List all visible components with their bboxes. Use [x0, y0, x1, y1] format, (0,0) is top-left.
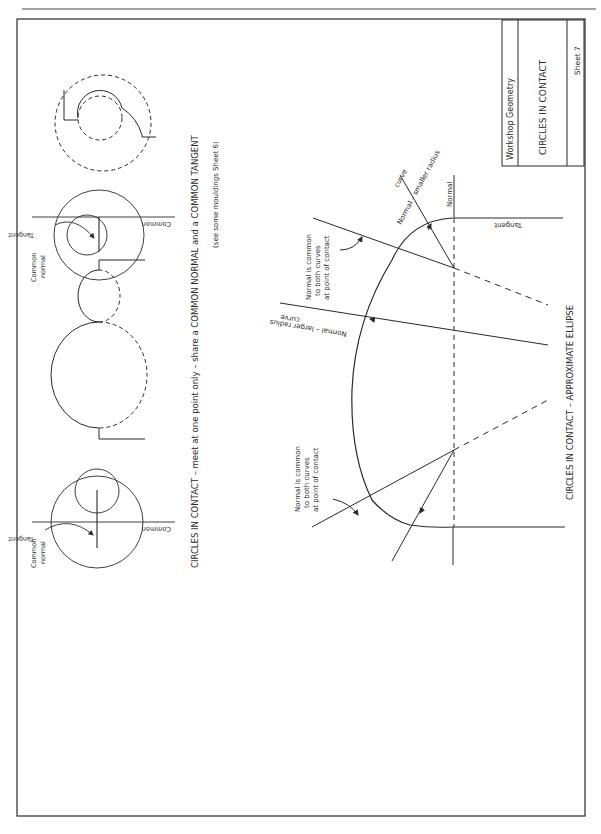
- fig1-common-normal-line1: Common: [30, 539, 38, 568]
- note-lower-line3: at point of contact: [312, 447, 320, 512]
- note-upper-line1: Normal is common: [305, 234, 313, 300]
- title-block-title: CIRCLES IN CONTACT: [538, 59, 548, 155]
- figure-external-contact: [32, 469, 175, 568]
- top-caption: CIRCLES IN CONTACT – meet at one point o…: [190, 134, 200, 568]
- fig3-common-normal-line1: Common: [30, 253, 38, 282]
- figure-internal-contact: [32, 190, 175, 280]
- fig3-tangent-label: Tangent: [8, 231, 35, 239]
- title-block-subject: Workshop Geometry: [506, 78, 515, 160]
- fig3-common-label: Common: [142, 220, 171, 228]
- drawing-sheet: Workshop Geometry CIRCLES IN CONTACT She…: [0, 0, 601, 834]
- smaller-radius-label-line1: Normal – smaller radius: [396, 149, 442, 226]
- note-lower-line2: to both curves: [303, 457, 311, 508]
- title-block: Workshop Geometry CIRCLES IN CONTACT She…: [502, 20, 584, 166]
- ellipse-tangent-label: Tangent: [494, 221, 523, 229]
- note-upper-line2: to both curves: [314, 245, 322, 296]
- top-subcaption: (see some mouldings Sheet 6): [212, 141, 220, 248]
- figure-moulding-bead: [55, 75, 156, 171]
- fig3-common-normal-line2: normal: [39, 255, 47, 278]
- sheet-border: [17, 19, 585, 816]
- fig1-common-label: Common: [142, 525, 171, 533]
- note-lower-line1: Normal is common: [294, 446, 302, 512]
- title-block-sheet-number: Sheet 7: [573, 46, 582, 75]
- larger-radius-label-line2: curve: [280, 313, 301, 324]
- figure-approximate-ellipse: [280, 175, 565, 565]
- ellipse-normal-label: Normal: [446, 182, 454, 207]
- figure-moulding-ogee: [51, 260, 147, 439]
- bottom-caption: CIRCLES IN CONTACT – APPROXIMATE ELLIPSE: [565, 305, 575, 500]
- note-upper-line3: at point of contact: [323, 235, 331, 300]
- fig1-common-normal-line2: normal: [39, 541, 47, 564]
